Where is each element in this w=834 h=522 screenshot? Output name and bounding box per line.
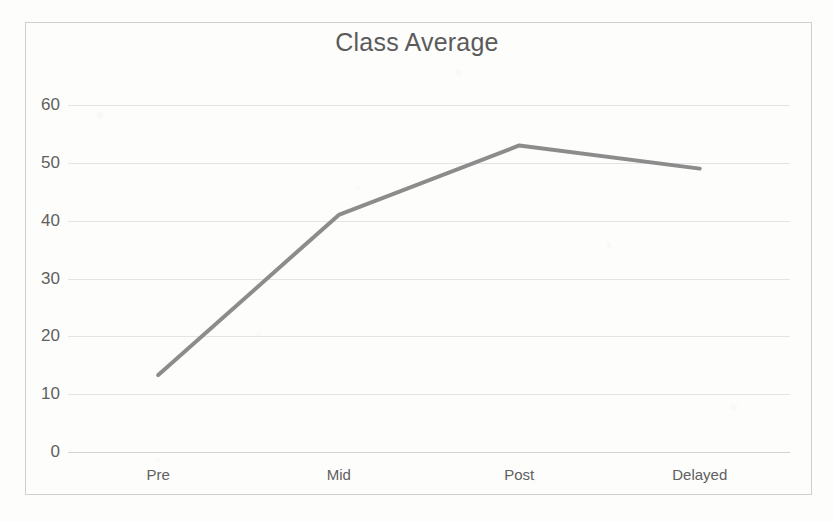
series-layer — [0, 0, 834, 522]
line-series-class-average — [158, 145, 700, 375]
